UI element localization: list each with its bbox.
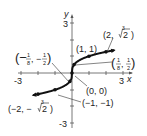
- svg-text:,: ,: [121, 59, 124, 69]
- svg-text:(2,: (2,: [103, 30, 114, 40]
- svg-text:(−2, −: (−2, −: [8, 104, 32, 114]
- curve-arrow-right-icon: [111, 49, 116, 53]
- x-axis-label: x: [126, 74, 132, 84]
- svg-text:1: 1: [117, 57, 120, 63]
- svg-text:2: 2: [123, 30, 128, 40]
- svg-text:, −: , −: [31, 54, 41, 64]
- axes: [18, 16, 132, 128]
- x-tick-3: 3: [119, 76, 124, 86]
- svg-text:(: (: [111, 55, 116, 70]
- data-point: [53, 88, 57, 92]
- svg-text:2: 2: [43, 60, 46, 66]
- svg-text:8: 8: [27, 60, 30, 66]
- label-point-1-1: (1, 1): [76, 44, 97, 54]
- data-point: [87, 54, 91, 58]
- label-point-eighth-half: ( 1 8 , 1 2 ): [111, 55, 135, 71]
- data-point: [70, 71, 74, 75]
- y-axis-arrow-icon: [71, 14, 74, 18]
- svg-text:): ): [131, 30, 134, 40]
- svg-text:2: 2: [42, 104, 47, 114]
- label-point-neg1-neg1: (−1, −1): [82, 98, 114, 108]
- svg-text:): ): [131, 55, 135, 70]
- svg-text:): ): [50, 104, 53, 114]
- y-tick-neg3: -3: [59, 119, 67, 129]
- label-point-0-0: (0, 0): [86, 86, 107, 96]
- svg-text:8: 8: [117, 65, 120, 71]
- curve-arrow-left-icon: [32, 92, 37, 96]
- label-point-2-cbrt2: (2, 3 2 ): [103, 25, 134, 40]
- cube-root-graph: x y -3 3 3 -3 (2, 3 2 ) (1, 1) ( 1 8 , 1: [0, 0, 147, 136]
- svg-text:(−: (−: [15, 50, 27, 65]
- y-tick-3: 3: [63, 19, 68, 29]
- svg-text:): ): [47, 50, 51, 65]
- y-axis-label: y: [63, 9, 69, 19]
- svg-text:1: 1: [127, 57, 130, 63]
- x-tick-neg3: -3: [14, 76, 22, 86]
- data-point: [72, 63, 76, 67]
- data-point: [36, 92, 40, 96]
- svg-text:1: 1: [43, 52, 46, 58]
- svg-text:1: 1: [27, 52, 30, 58]
- svg-text:2: 2: [127, 65, 130, 71]
- label-point-neg-eighth-neg-half: (− 1 8 , − 1 2 ): [15, 50, 51, 66]
- label-point-neg2-neg-cbrt2: (−2, − 3 2 ): [8, 99, 53, 114]
